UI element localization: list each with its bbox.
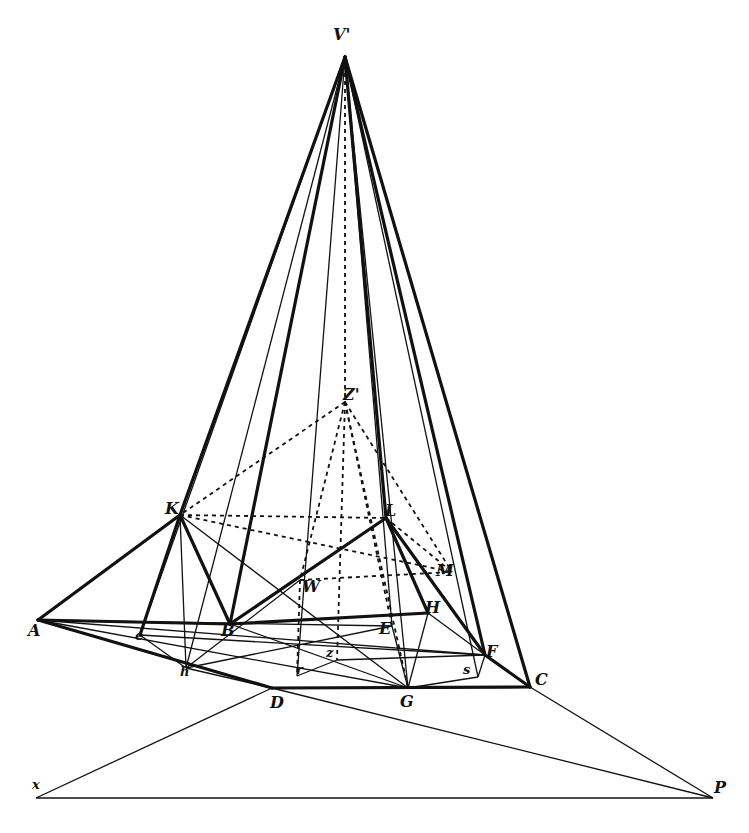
thick-line-V-K: [180, 57, 345, 515]
dashed-line-K-M: [180, 515, 452, 572]
dashed-line-K-L: [180, 515, 386, 518]
thick-line-A-D: [38, 620, 272, 688]
thin-line-D-P: [272, 688, 713, 798]
point-label-r: r: [296, 662, 304, 677]
thin-line-V-s: [345, 57, 478, 677]
thick-line-e-K: [140, 515, 180, 635]
point-label-V: V': [333, 25, 350, 44]
point-label-F: F: [485, 642, 499, 661]
point-label-W: W: [302, 577, 322, 596]
point-label-h: h: [180, 664, 189, 679]
thin-line-D-x: [36, 688, 272, 798]
thin-line-K-h: [180, 515, 186, 668]
thick-line-K-A: [38, 515, 180, 620]
point-label-G: G: [400, 692, 414, 711]
thin-line-C-P: [530, 687, 713, 798]
dashed-line-Z-z: [337, 402, 345, 660]
thin-line-F-s: [478, 655, 485, 677]
point-label-E: E: [378, 619, 392, 638]
point-label-M: M: [435, 561, 455, 580]
thick-line-V-F: [345, 57, 485, 655]
thick-line-D-C: [272, 687, 530, 688]
point-label-e: e: [135, 628, 143, 643]
perspective-diagram: V'Z'KLABEeHhWMDGCFrzsxP: [0, 0, 749, 833]
point-label-K: K: [164, 499, 180, 518]
point-label-x: x: [31, 777, 40, 792]
thin-line-h-E: [186, 626, 392, 668]
point-label-A: A: [26, 621, 40, 640]
point-label-C: C: [535, 670, 548, 689]
thick-line-B-H: [230, 613, 428, 624]
point-label-z: z: [325, 645, 334, 660]
thick-line-A-B: [38, 620, 230, 624]
point-label-P: P: [713, 778, 727, 797]
point-label-s: s: [463, 662, 471, 677]
thick-line-K-B: [180, 515, 230, 624]
point-label-L: L: [384, 501, 396, 520]
thick-line-V-B: [230, 57, 345, 624]
point-label-H: H: [424, 598, 441, 617]
point-label-Z: Z': [342, 385, 360, 404]
point-label-B: B: [220, 621, 235, 640]
point-label-D: D: [269, 693, 284, 712]
thin-line-z-F: [337, 655, 485, 660]
